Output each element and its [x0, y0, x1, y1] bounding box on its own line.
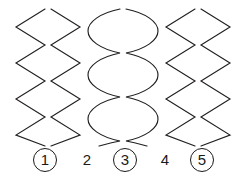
wave-2: [51, 9, 80, 146]
wave-pattern-figure: 12345: [0, 0, 244, 176]
label-4: 4: [153, 148, 177, 172]
label-2: 2: [75, 148, 99, 172]
label-row: 12345: [0, 148, 244, 174]
wave-1: [16, 9, 45, 146]
label-1: 1: [33, 148, 57, 172]
label-5: 5: [190, 148, 214, 172]
wave-3-right: [126, 9, 158, 146]
wave-4: [166, 9, 195, 146]
wave-3-left: [88, 9, 120, 146]
label-3: 3: [113, 148, 137, 172]
wave-group: [16, 9, 230, 146]
wave-5: [201, 9, 230, 146]
